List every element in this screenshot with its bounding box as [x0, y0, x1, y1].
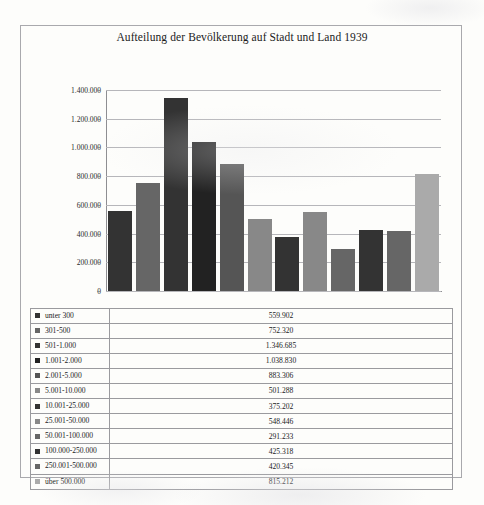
- legend-value-cell: 548.446: [110, 414, 453, 429]
- legend-label-cell: 5.001-10.000: [31, 384, 110, 399]
- legend-category-label: über 500.000: [45, 477, 85, 486]
- table-row: 50.001-100.000291.233: [31, 429, 453, 444]
- table-row: 2.001-5.000883.306: [31, 369, 453, 384]
- table-row: 100.000-250.000425.318: [31, 444, 453, 459]
- table-row: 301-500752.320: [31, 324, 453, 339]
- legend-swatch-icon: [35, 449, 40, 454]
- bar: [220, 164, 244, 291]
- bar: [108, 211, 132, 291]
- legend-category-label: 1.001-2.000: [45, 357, 82, 366]
- legend-label-cell: unter 300: [31, 309, 110, 324]
- y-axis-tick-mark: [97, 234, 101, 235]
- legend-value-cell: 1.346.685: [110, 339, 453, 354]
- bar: [359, 230, 383, 291]
- legend-value-cell: 291.233: [110, 429, 453, 444]
- bar: [136, 183, 160, 291]
- legend-swatch-icon: [35, 404, 40, 409]
- legend-swatch-icon: [35, 373, 40, 378]
- bar: [331, 249, 355, 291]
- gridline: [106, 90, 441, 91]
- bar: [387, 231, 411, 291]
- y-axis-tick-mark: [97, 262, 101, 263]
- legend-label-cell: 501-1.000: [31, 339, 110, 354]
- legend-swatch-icon: [35, 388, 40, 393]
- legend-category-label: 301-500: [45, 327, 70, 336]
- table-row: unter 300559.902: [31, 309, 453, 324]
- plot-area-wrapper: 0200.000400.000600.000800.0001.000.0001.…: [21, 26, 463, 306]
- legend-label-cell: über 500.000: [31, 474, 110, 489]
- legend-label-cell: 25.001-50.000: [31, 414, 110, 429]
- legend-swatch-icon: [35, 479, 40, 484]
- legend-swatch-icon: [35, 343, 40, 348]
- legend-category-label: unter 300: [45, 311, 74, 320]
- y-axis-tick-mark: [97, 119, 101, 120]
- legend-category-label: 10.001-25.000: [45, 402, 89, 411]
- table-row: 10.001-25.000375.202: [31, 399, 453, 414]
- figure-frame: Aufteilung der Bevölkerung auf Stadt und…: [20, 25, 462, 478]
- bar: [303, 212, 327, 291]
- legend-swatch-icon: [35, 434, 40, 439]
- legend-value-cell: 1.038.830: [110, 354, 453, 369]
- bar: [275, 237, 299, 291]
- legend-value-cell: 375.202: [110, 399, 453, 414]
- table-row: 25.001-50.000548.446: [31, 414, 453, 429]
- legend-swatch-icon: [35, 328, 40, 333]
- legend-label-cell: 301-500: [31, 324, 110, 339]
- legend-category-label: 501-1.000: [45, 342, 76, 351]
- y-axis-labels: 0200.000400.000600.000800.0001.000.0001.…: [21, 90, 101, 292]
- legend-value-cell: 752.320: [110, 324, 453, 339]
- gridline: [106, 147, 441, 148]
- y-axis-tick-mark: [97, 90, 101, 91]
- table-row: 250.001-500.000420.345: [31, 459, 453, 474]
- table-row: 501-1.0001.346.685: [31, 339, 453, 354]
- bar: [248, 219, 272, 291]
- y-axis-tick-mark: [97, 291, 101, 292]
- legend-label-cell: 10.001-25.000: [31, 399, 110, 414]
- legend-swatch-icon: [35, 358, 40, 363]
- bar: [192, 142, 216, 291]
- legend-label-cell: 100.000-250.000: [31, 444, 110, 459]
- legend-swatch-icon: [35, 464, 40, 469]
- table-row: 5.001-10.000501.288: [31, 384, 453, 399]
- legend-label-cell: 250.001-500.000: [31, 459, 110, 474]
- legend-label-cell: 50.001-100.000: [31, 429, 110, 444]
- gridline: [106, 176, 441, 177]
- legend-category-label: 5.001-10.000: [45, 387, 86, 396]
- y-axis-tick-mark: [97, 205, 101, 206]
- legend-swatch-icon: [35, 313, 40, 318]
- gridline: [106, 291, 441, 292]
- table-row: über 500.000815.212: [31, 474, 453, 489]
- legend-swatch-icon: [35, 419, 40, 424]
- legend-category-label: 25.001-50.000: [45, 417, 89, 426]
- legend-category-label: 100.000-250.000: [45, 447, 97, 456]
- bar: [164, 98, 188, 291]
- legend-value-cell: 815.212: [110, 474, 453, 489]
- legend-label-cell: 1.001-2.000: [31, 354, 110, 369]
- gridline: [106, 119, 441, 120]
- legend-category-label: 2.001-5.000: [45, 372, 82, 381]
- legend-category-label: 250.001-500.000: [45, 462, 97, 471]
- legend-value-cell: 420.345: [110, 459, 453, 474]
- legend-category-label: 50.001-100.000: [45, 432, 93, 441]
- legend-value-cell: 883.306: [110, 369, 453, 384]
- bars-plot: [106, 90, 441, 291]
- y-axis-tick-mark: [97, 176, 101, 177]
- legend-data-table: unter 300559.902301-500752.320501-1.0001…: [30, 308, 453, 490]
- legend-value-cell: 559.902: [110, 309, 453, 324]
- legend-label-cell: 2.001-5.000: [31, 369, 110, 384]
- y-axis-tick-mark: [97, 147, 101, 148]
- table-row: 1.001-2.0001.038.830: [31, 354, 453, 369]
- bar: [415, 174, 439, 291]
- legend-value-cell: 501.288: [110, 384, 453, 399]
- legend-value-cell: 425.318: [110, 444, 453, 459]
